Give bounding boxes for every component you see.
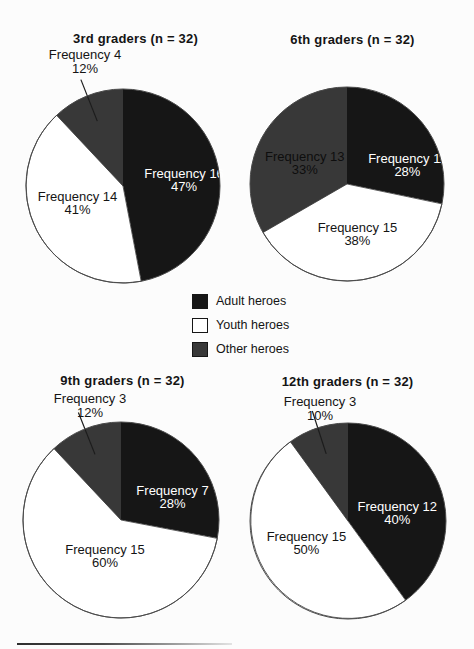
legend-item-adult-heroes: Adult heroes	[192, 294, 289, 308]
pie-6th-graders: Frequency 1128%Frequency 1538%Frequency …	[237, 0, 474, 300]
slice-percent-label: 60%	[92, 555, 118, 570]
slice-percent-label: 12%	[30, 406, 150, 420]
slice-percent-label: 38%	[344, 233, 370, 248]
outside-slice-label-other-9th: Frequency 3 12%	[30, 392, 150, 419]
legend-label: Adult heroes	[216, 294, 286, 308]
chart-12th-graders: 12th graders (n = 32) Frequency 1240%Fre…	[237, 352, 474, 649]
adult-heroes-swatch-icon	[192, 294, 208, 309]
outside-slice-label-other-3rd: Frequency 4 12%	[25, 48, 145, 75]
legend: Adult heroes Youth heroes Other heroes	[192, 294, 289, 356]
slice-percent-label: 28%	[159, 496, 185, 511]
slice-percent-label: 41%	[64, 202, 90, 217]
slice-percent-label: 50%	[293, 542, 319, 557]
chart-9th-graders: 9th graders (n = 32) Frequency 728%Frequ…	[0, 352, 237, 649]
outside-slice-label-other-12th: Frequency 3 10%	[260, 395, 380, 422]
slice-percent-label: 47%	[171, 179, 197, 194]
slice-percent-label: 28%	[394, 164, 420, 179]
pie-3rd-graders: Frequency 1647%Frequency 1441%	[0, 0, 237, 300]
figure-hero-pie-charts: 3rd graders (n = 32) Frequency 1647%Freq…	[0, 0, 474, 649]
slice-percent-label: 33%	[292, 162, 318, 177]
slice-label: Frequency 3	[30, 392, 150, 406]
chart-6th-graders: 6th graders (n = 32) Frequency 1128%Freq…	[237, 0, 474, 300]
youth-heroes-swatch-icon	[192, 318, 208, 333]
slice-label: Frequency 3	[260, 395, 380, 409]
slice-percent-label: 40%	[384, 512, 410, 527]
slice-percent-label: 10%	[260, 409, 380, 423]
slice-label: Frequency 4	[25, 48, 145, 62]
chart-3rd-graders: 3rd graders (n = 32) Frequency 1647%Freq…	[0, 0, 237, 300]
slice-adult-heroes	[121, 422, 219, 538]
slice-adult-heroes	[347, 87, 444, 204]
slice-percent-label: 12%	[25, 62, 145, 76]
legend-item-youth-heroes: Youth heroes	[192, 318, 289, 332]
footer-rule	[17, 643, 232, 645]
legend-label: Youth heroes	[216, 318, 289, 332]
